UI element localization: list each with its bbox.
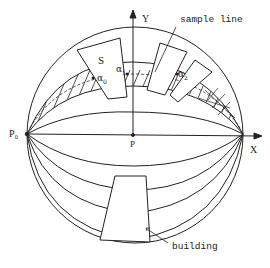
y-axis-arrow <box>130 10 136 18</box>
upper-arc-3 <box>27 112 243 134</box>
hatched-right <box>198 88 235 118</box>
point-p0 <box>25 132 29 136</box>
p0-label: P₀ <box>9 129 18 139</box>
alpha0-label: α0 <box>97 74 107 85</box>
y-axis-label: Y <box>142 14 149 24</box>
origin-label: P <box>130 140 135 149</box>
sample-line-label: sample line <box>180 15 243 25</box>
hatched-band <box>30 70 250 140</box>
x-axis <box>27 134 260 136</box>
lower-arc-1 <box>27 134 243 166</box>
sky-dome-diagram <box>0 0 270 268</box>
point-p <box>132 134 135 137</box>
sky-patch-label: S <box>98 55 104 66</box>
x-axis-arrow <box>254 133 262 139</box>
x-axis-label: X <box>250 145 257 155</box>
alpha1-point <box>126 73 129 76</box>
alpha2-label: α2 <box>178 70 188 81</box>
building-lower <box>100 176 150 242</box>
alpha0-point <box>92 77 95 80</box>
upper-arc-2 <box>27 86 243 134</box>
alpha1-label: α1 <box>116 65 126 76</box>
building-label: building <box>172 242 218 252</box>
